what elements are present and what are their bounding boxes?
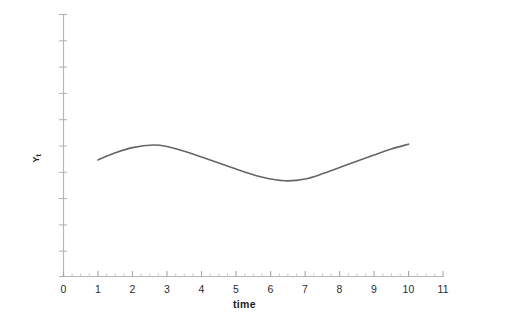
plot-canvas (0, 0, 507, 320)
x-tick-label-6: 6 (261, 283, 281, 295)
y-axis-title-text: Y (30, 157, 41, 163)
x-tick-label-3: 3 (157, 283, 177, 295)
x-tick-label-4: 4 (192, 283, 212, 295)
y-axis-title: Yt (30, 147, 41, 171)
x-tick-label-5: 5 (226, 283, 246, 295)
x-tick-label-10: 10 (399, 283, 419, 295)
x-axis-title: time (233, 298, 256, 310)
y-axis-title-subscript: t (35, 154, 42, 156)
x-tick-label-0: 0 (54, 283, 74, 295)
chart-figure: 0 1 2 3 4 5 6 7 8 9 10 11 time Yt (0, 0, 507, 320)
series-line-yt (98, 144, 409, 181)
x-tick-label-8: 8 (330, 283, 350, 295)
x-tick-label-1: 1 (88, 283, 108, 295)
x-tick-label-11: 11 (433, 283, 453, 295)
x-tick-label-7: 7 (295, 283, 315, 295)
x-tick-label-9: 9 (364, 283, 384, 295)
x-tick-label-2: 2 (123, 283, 143, 295)
